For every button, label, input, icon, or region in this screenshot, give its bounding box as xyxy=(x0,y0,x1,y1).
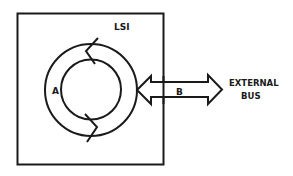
external-label-line1: EXTERNAL xyxy=(229,78,279,88)
lsi-label: LSI xyxy=(114,22,130,32)
external-label-line2: BUS xyxy=(241,91,261,101)
lsi-bus-diagram: LSI A B EXTERNAL BUS xyxy=(0,0,293,176)
ring-label-a: A xyxy=(52,86,59,96)
diagram-canvas: LSI A B EXTERNAL BUS xyxy=(0,0,293,176)
ring-inner-circle xyxy=(61,60,121,120)
bus-label-b: B xyxy=(176,87,183,97)
